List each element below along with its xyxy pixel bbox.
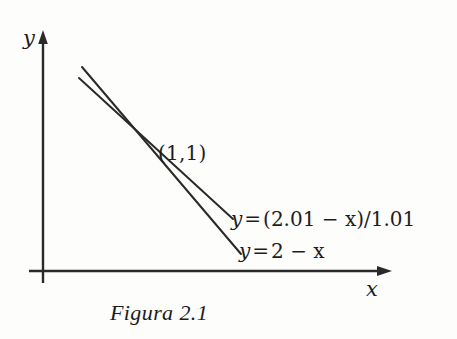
- figure-2-1: y x (1,1) y=(2.01 − x)/1.01 y=2 − x Figu…: [0, 0, 457, 339]
- figure-drawing-canvas: [0, 0, 457, 339]
- y-axis-arrowhead: [38, 30, 48, 44]
- y-axis-label: y: [23, 28, 35, 49]
- equation-2-rhs: 2 − x: [271, 239, 324, 263]
- equation-1-rhs: (2.01 − x)/1.01: [263, 207, 415, 231]
- figure-caption: Figura 2.1: [110, 300, 208, 326]
- x-axis-label: x: [366, 279, 378, 300]
- line-y-equals-2point01-minus-x-over-1point01: [79, 78, 233, 219]
- x-axis-arrowhead: [377, 266, 392, 276]
- equation-1-lhs: y: [231, 207, 242, 231]
- intersection-point-label: (1,1): [158, 143, 206, 163]
- equation-1-equals: =: [242, 207, 263, 231]
- equation-2-equals: =: [250, 239, 271, 263]
- equation-label-upper: y=(2.01 − x)/1.01: [231, 209, 415, 229]
- equation-2-lhs: y: [239, 239, 250, 263]
- equation-label-lower: y=2 − x: [239, 241, 325, 261]
